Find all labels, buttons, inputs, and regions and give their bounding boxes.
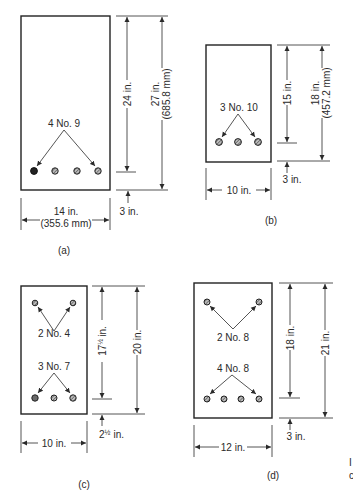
section-d: 2 No. 8 4 No. 8 18 in. 21 in. 3 in. 12 i…	[194, 283, 333, 481]
rebar-a-1	[31, 168, 38, 175]
rebar-c-top-1	[32, 300, 38, 306]
rebar-d-top-2	[256, 299, 262, 305]
effective-depth-c: 17½in.	[97, 326, 108, 356]
total-depth-mm-b: (457.2 mm)	[321, 67, 332, 118]
rebar-c-bot-2	[51, 395, 57, 401]
bottom-bar-label-d: 4 No. 8	[217, 363, 250, 374]
top-bar-label-d: 2 No. 8	[217, 332, 250, 343]
effective-depth-b: 15 in.	[282, 81, 293, 105]
width-c: 10 in.	[42, 438, 66, 449]
cover-a: 3 in.	[120, 206, 139, 217]
rebar-c-top-2	[70, 300, 76, 306]
cover-c: 2½in.	[99, 429, 124, 440]
rebar-b-1	[216, 139, 223, 146]
total-depth-d: 21 in.	[320, 331, 331, 355]
rebar-d-bot-4	[256, 396, 262, 402]
rebar-d-bot-2	[221, 396, 227, 402]
cover-b: 3 in.	[283, 174, 302, 185]
edge-fragment: I	[349, 457, 352, 468]
beam-sections-figure: 4 No. 9 24 in. 27 in. (685.8 mm) 3 in. 1…	[0, 0, 353, 497]
section-a: 4 No. 9 24 in. 27 in. (685.8 mm) 3 in. 1…	[21, 16, 172, 256]
caption-b: (b)	[265, 215, 277, 226]
caption-c: (c)	[78, 479, 90, 490]
rebar-c-bot-1	[32, 395, 38, 401]
effective-depth-d: 18 in.	[285, 326, 296, 350]
edge-fragment: c	[349, 470, 353, 481]
total-depth-mm-a: (685.8 mm)	[161, 68, 172, 119]
width-mm-a: (355.6 mm)	[40, 218, 91, 229]
rebar-a-2	[52, 168, 58, 174]
bar-label-a: 4 No. 9	[48, 118, 81, 129]
rebar-a-4	[95, 168, 101, 174]
rebar-a-3	[74, 168, 80, 174]
total-depth-b: 18 in.	[310, 81, 321, 105]
rebar-d-bot-3	[238, 396, 244, 402]
rebar-b-2	[235, 139, 242, 146]
top-bar-label-c: 2 No. 4	[38, 328, 71, 339]
caption-a: (a)	[58, 245, 70, 256]
beam-outline-a	[21, 16, 110, 190]
width-a: 14 in.	[54, 206, 78, 217]
rebar-d-top-1	[204, 299, 210, 305]
bar-label-b: 3 No. 10	[220, 102, 258, 113]
width-b: 10 in.	[227, 185, 251, 196]
section-c: 2 No. 4 3 No. 7 17½in. 20 in. 2½in. 10 i…	[21, 286, 145, 490]
rebar-d-bot-1	[204, 396, 210, 402]
total-depth-a: 27 in.	[150, 82, 161, 106]
total-depth-c: 20 in.	[132, 330, 143, 354]
rebar-c-bot-3	[70, 395, 76, 401]
effective-depth-a: 24 in.	[122, 82, 133, 106]
width-d: 12 in.	[221, 442, 245, 453]
cover-d: 3 in.	[287, 431, 306, 442]
bottom-bar-label-c: 3 No. 7	[38, 361, 71, 372]
rebar-b-3	[255, 139, 262, 146]
caption-d: (d)	[267, 470, 279, 481]
section-b: 3 No. 10 15 in. 18 in. (457.2 mm) 3 in. …	[206, 45, 332, 226]
